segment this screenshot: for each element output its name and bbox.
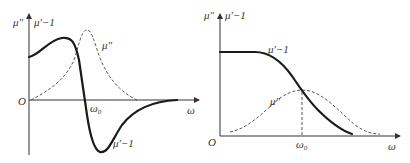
left-mu-double-prime-label: μ″ [101, 39, 113, 51]
right-mu-double-prime-curve [230, 90, 380, 134]
right-origin-label: O [208, 136, 216, 148]
right-figure: μ″ μ′−1 O ω ω0 μ′−1 μ″ [203, 9, 400, 152]
right-mu-prime-label: μ′−1 [267, 43, 289, 55]
left-figure: μ″ μ′−1 O ω ω0 μ″ μ′−1 [12, 14, 199, 155]
left-mu-prime-label: μ′−1 [112, 137, 134, 149]
left-y-label-mu2: μ″ [12, 16, 24, 28]
right-y-label-mu2: μ″ [203, 9, 215, 21]
right-mu-prime-minus-1-curve [220, 52, 352, 134]
right-omega0-label: ω0 [296, 138, 308, 152]
left-x-label: ω [187, 104, 195, 116]
left-y-label-mu1: μ′−1 [33, 16, 55, 28]
left-mu-prime-minus-1-curve [29, 38, 177, 152]
left-origin-label: O [18, 95, 26, 107]
right-x-label: ω [388, 140, 396, 152]
left-omega0-label: ω0 [90, 102, 102, 116]
right-y-label-mu1: μ′−1 [224, 9, 246, 21]
diagram-canvas: μ″ μ′−1 O ω ω0 μ″ μ′−1 μ″ μ′−1 O ω ω0 μ′… [0, 0, 410, 163]
right-mu-double-prime-label: μ″ [269, 95, 281, 107]
